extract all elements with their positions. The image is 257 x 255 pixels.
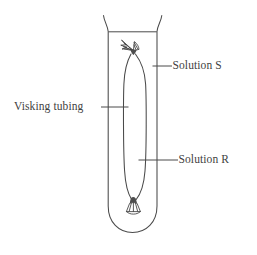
bottom-tie-knot bbox=[126, 197, 140, 214]
label-solution-r: Solution R bbox=[179, 153, 230, 165]
label-solution-s: Solution S bbox=[173, 59, 222, 71]
label-visking-tubing: Visking tubing bbox=[14, 100, 84, 113]
leader-lines bbox=[101, 66, 178, 160]
visking-tubing-bag bbox=[123, 54, 146, 200]
visking-tubing-figure: Visking tubing Solution S Solution R bbox=[0, 0, 257, 255]
visking-tubing-right-edge bbox=[135, 54, 146, 200]
visking-tubing-left-edge bbox=[123, 54, 131, 200]
top-tie-knot bbox=[121, 40, 139, 55]
science-diagram: Visking tubing Solution S Solution R bbox=[0, 0, 257, 255]
